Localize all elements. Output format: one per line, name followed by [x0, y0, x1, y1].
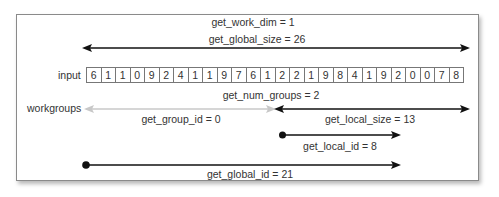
input-cell: 1 [116, 68, 131, 82]
workgroups-label: workgroups [27, 102, 81, 114]
input-cell: 0 [421, 68, 436, 82]
input-cell: 4 [348, 68, 363, 82]
input-cell: 1 [102, 68, 117, 82]
input-cell: 8 [450, 68, 464, 82]
input-cell: 1 [363, 68, 378, 82]
input-cell: 1 [305, 68, 320, 82]
input-cell: 7 [435, 68, 450, 82]
input-cell: 1 [189, 68, 204, 82]
group-id-label: get_group_id = 0 [141, 113, 220, 125]
input-cell: 6 [87, 68, 102, 82]
input-cell: 2 [290, 68, 305, 82]
global-id-label: get_global_id = 21 [207, 168, 293, 180]
input-array: 6 1 1 0 9 2 4 1 1 9 7 6 1 2 2 1 9 8 4 1 … [86, 67, 464, 83]
global-size-arrow [82, 42, 470, 54]
input-cell: 2 [392, 68, 407, 82]
input-cell: 0 [131, 68, 146, 82]
input-cell: 2 [160, 68, 175, 82]
input-cell: 2 [276, 68, 291, 82]
input-cell: 9 [145, 68, 160, 82]
local-size-label: get_local_size = 13 [325, 113, 415, 125]
input-label: input [58, 69, 81, 81]
input-cell: 7 [232, 68, 247, 82]
input-cell: 9 [218, 68, 233, 82]
input-cell: 1 [261, 68, 276, 82]
input-cell: 4 [174, 68, 189, 82]
input-cell: 9 [319, 68, 334, 82]
input-cell: 6 [247, 68, 262, 82]
input-cell: 8 [334, 68, 349, 82]
input-cell: 9 [377, 68, 392, 82]
input-cell: 1 [203, 68, 218, 82]
local-id-label: get_local_id = 8 [303, 140, 377, 152]
input-cell: 0 [406, 68, 421, 82]
num-groups-label: get_num_groups = 2 [223, 89, 320, 101]
work-dim-label: get_work_dim = 1 [211, 16, 294, 28]
